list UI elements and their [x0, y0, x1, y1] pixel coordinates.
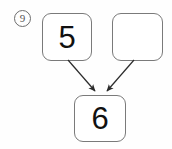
worksheet-item: 9 5 6 [0, 0, 172, 149]
sum-box[interactable]: 6 [74, 95, 126, 142]
arrow-addend-left-to-sum [68, 60, 95, 91]
item-number-marker: 9 [14, 10, 31, 27]
addend-right-box[interactable] [112, 13, 163, 61]
item-number-label: 9 [20, 13, 26, 24]
addend-left-value: 5 [58, 22, 75, 53]
addend-left-box[interactable]: 5 [42, 13, 92, 61]
sum-value: 6 [91, 103, 108, 134]
arrow-addend-right-to-sum [107, 60, 134, 91]
